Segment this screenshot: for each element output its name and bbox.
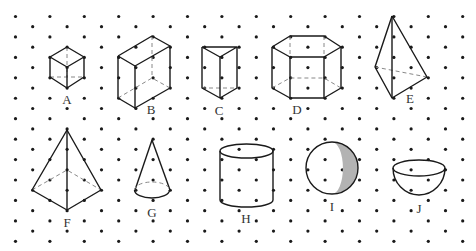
grid-dot xyxy=(186,240,189,243)
grid-dot xyxy=(238,66,241,69)
grid-dot xyxy=(306,209,309,212)
grid-dot xyxy=(410,107,413,110)
grid-dot xyxy=(358,240,361,243)
grid-dot xyxy=(392,76,395,79)
grid-dot xyxy=(117,35,120,38)
grid-dot xyxy=(100,86,103,89)
grid-dot xyxy=(203,25,206,28)
grid-dot xyxy=(48,240,51,243)
grid-dot xyxy=(427,35,430,38)
grid-dot xyxy=(427,15,430,18)
grid-dot xyxy=(14,158,17,161)
grid-dot xyxy=(203,148,206,151)
grid-dot xyxy=(392,56,395,59)
grid-dot xyxy=(461,219,464,222)
grid-dot xyxy=(100,209,103,212)
grid-dot xyxy=(203,168,206,171)
grid-dot xyxy=(358,178,361,181)
grid-dot xyxy=(152,15,155,18)
grid-dot xyxy=(31,127,34,130)
grid-dot xyxy=(83,97,86,100)
grid-dot xyxy=(100,107,103,110)
grid-dot xyxy=(14,56,17,59)
figure-square-pyramid: F xyxy=(32,130,101,230)
grid-dot xyxy=(461,240,464,243)
grid-dot xyxy=(238,86,241,89)
grid-dot xyxy=(341,107,344,110)
grid-dot xyxy=(289,117,292,120)
grid-dot xyxy=(341,230,344,233)
figure-label-h: H xyxy=(241,211,250,226)
grid-dot xyxy=(203,189,206,192)
figure-label-i: I xyxy=(330,199,334,214)
grid-dot xyxy=(375,107,378,110)
grid-dot xyxy=(220,178,223,181)
grid-dot xyxy=(306,46,309,49)
grid-dot xyxy=(31,107,34,110)
grid-dot xyxy=(117,199,120,202)
grid-dot xyxy=(427,138,430,141)
grid-dot xyxy=(444,107,447,110)
grid-dot xyxy=(14,219,17,222)
grid-dot xyxy=(238,107,241,110)
grid-dot xyxy=(238,230,241,233)
grid-dot xyxy=(289,15,292,18)
grid-dot xyxy=(306,230,309,233)
grid-dot xyxy=(134,25,137,28)
grid-dot xyxy=(306,127,309,130)
grid-dot xyxy=(220,158,223,161)
grid-dot xyxy=(306,189,309,192)
grid-dot xyxy=(14,35,17,38)
grid-dot xyxy=(255,138,258,141)
figure-label-a: A xyxy=(62,92,72,107)
grid-dot xyxy=(444,189,447,192)
grid-dot xyxy=(14,178,17,181)
grid-dot xyxy=(461,158,464,161)
grid-dot xyxy=(427,178,430,181)
grid-dot xyxy=(427,56,430,59)
grid-dot xyxy=(444,127,447,130)
grid-dot xyxy=(152,117,155,120)
grid-dot xyxy=(375,189,378,192)
figure-cylinder: H xyxy=(220,144,273,226)
grid-dot xyxy=(14,15,17,18)
grid-dot xyxy=(152,199,155,202)
grid-dot xyxy=(444,230,447,233)
grid-dot xyxy=(306,86,309,89)
grid-dot xyxy=(444,148,447,151)
grid-dot xyxy=(255,219,258,222)
grid-dot xyxy=(186,219,189,222)
grid-dot xyxy=(255,76,258,79)
grid-dot xyxy=(410,66,413,69)
grid-dot xyxy=(117,178,120,181)
grid-dot xyxy=(461,76,464,79)
grid-dot xyxy=(461,178,464,181)
grid-dot xyxy=(152,240,155,243)
grid-dot xyxy=(324,240,327,243)
grid-dot xyxy=(341,127,344,130)
grid-dot xyxy=(134,230,137,233)
grid-dot xyxy=(169,230,172,233)
grid-dot xyxy=(186,158,189,161)
grid-dot xyxy=(375,86,378,89)
grid-dot xyxy=(220,240,223,243)
grid-dot xyxy=(375,209,378,212)
grid-dot xyxy=(272,209,275,212)
grid-dot xyxy=(306,148,309,151)
grid-dot xyxy=(134,168,137,171)
grid-dot xyxy=(358,97,361,100)
grid-dot xyxy=(83,117,86,120)
grid-dot xyxy=(117,158,120,161)
grid-dot xyxy=(255,117,258,120)
grid-dot xyxy=(272,25,275,28)
grid-dot xyxy=(358,117,361,120)
grid-dot xyxy=(427,219,430,222)
grid-dot xyxy=(169,25,172,28)
grid-dot xyxy=(100,66,103,69)
grid-dot xyxy=(220,76,223,79)
grid-dot xyxy=(31,168,34,171)
grid-dot xyxy=(238,168,241,171)
grid-dot xyxy=(203,209,206,212)
grid-dot xyxy=(83,219,86,222)
grid-dot xyxy=(117,138,120,141)
